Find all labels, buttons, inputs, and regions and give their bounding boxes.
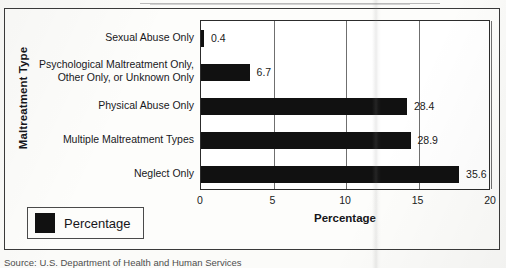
x-axis-tick-label: 15 — [412, 194, 424, 206]
scan-crop-line-secondary — [150, 4, 410, 5]
legend-label-percentage: Percentage — [64, 216, 131, 231]
source-note: Source: U.S. Department of Health and Hu… — [4, 257, 242, 268]
bar-value-label: 6.7 — [257, 66, 272, 78]
category-label-group: Sexual Abuse OnlyPsychological Maltreatm… — [24, 20, 194, 190]
category-label-line: Physical Abuse Only — [24, 99, 194, 112]
category-label-line: Multiple Maltreatment Types — [24, 133, 194, 146]
category-label: Psychological Maltreatment Only,Other On… — [24, 58, 194, 84]
category-label-line: Psychological Maltreatment Only, — [24, 58, 194, 71]
bar-row: 6.7 — [201, 55, 489, 89]
legend-swatch-percentage — [35, 213, 55, 233]
bar-value-label: 28.9 — [418, 134, 438, 146]
category-label-line: Sexual Abuse Only — [24, 31, 194, 44]
bar-value-label: 35.6 — [466, 168, 486, 180]
x-axis-tick-label: 0 — [197, 194, 203, 206]
x-axis-tick-label: 10 — [339, 194, 351, 206]
x-axis-tick-label: 20 — [484, 194, 496, 206]
x-axis-title: Percentage — [200, 212, 490, 224]
bar-row: 28.4 — [201, 89, 489, 123]
category-label-line: Other Only, or Unknown Only — [24, 71, 194, 84]
bar-row: 35.6 — [201, 157, 489, 191]
bar-row: 0.4 — [201, 21, 489, 55]
bar — [201, 98, 407, 115]
bar — [201, 30, 204, 47]
category-label: Multiple Maltreatment Types — [24, 133, 194, 146]
bar — [201, 64, 250, 81]
bar — [201, 166, 459, 183]
bar — [201, 132, 411, 149]
plot-area: 0.46.728.428.935.6 — [200, 20, 490, 190]
chart-figure: Maltreatment Type Sexual Abuse OnlyPsych… — [0, 0, 506, 268]
category-label: Neglect Only — [24, 167, 194, 180]
x-axis-tick-group: 05101520 — [200, 192, 490, 208]
bar-value-label: 28.4 — [414, 100, 434, 112]
bar-group: 0.46.728.428.935.6 — [201, 21, 489, 189]
category-label: Sexual Abuse Only — [24, 31, 194, 44]
x-axis-tick-label: 5 — [270, 194, 276, 206]
bar-value-label: 0.4 — [211, 32, 226, 44]
gridline — [491, 21, 492, 189]
category-label-line: Neglect Only — [24, 167, 194, 180]
category-label: Physical Abuse Only — [24, 99, 194, 112]
legend: Percentage — [27, 207, 144, 239]
bar-row: 28.9 — [201, 123, 489, 157]
